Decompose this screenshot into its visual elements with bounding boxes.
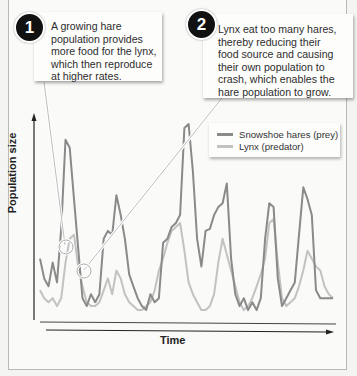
step-2-badge: 2 bbox=[186, 9, 217, 40]
lynx-swatch-icon bbox=[217, 145, 233, 148]
legend-item-lynx: Lynx (predator) bbox=[217, 140, 304, 152]
callout-2: Lynx eat too many hares, thereby reducin… bbox=[203, 14, 353, 98]
hares-swatch-icon bbox=[217, 133, 233, 136]
x-axis-arrow-icon bbox=[326, 330, 334, 335]
y-axis-arrow-icon bbox=[32, 113, 37, 121]
callout-1: A growing hare population provides more … bbox=[34, 12, 162, 81]
legend-item-hares: Snowshoe hares (prey) bbox=[217, 128, 338, 140]
x-axis-label: Time bbox=[160, 334, 185, 346]
callout-2-text: Lynx eat too many hares, thereby reducin… bbox=[218, 23, 337, 99]
step-1-badge: 1 bbox=[14, 12, 45, 43]
chart-legend: Snowshoe hares (prey) Lynx (predator) bbox=[209, 123, 340, 157]
callout-1-text: A growing hare population provides more … bbox=[51, 20, 156, 83]
chart-baseline bbox=[40, 322, 336, 324]
y-axis-label: Population size bbox=[6, 128, 18, 218]
x-axis bbox=[46, 330, 328, 332]
